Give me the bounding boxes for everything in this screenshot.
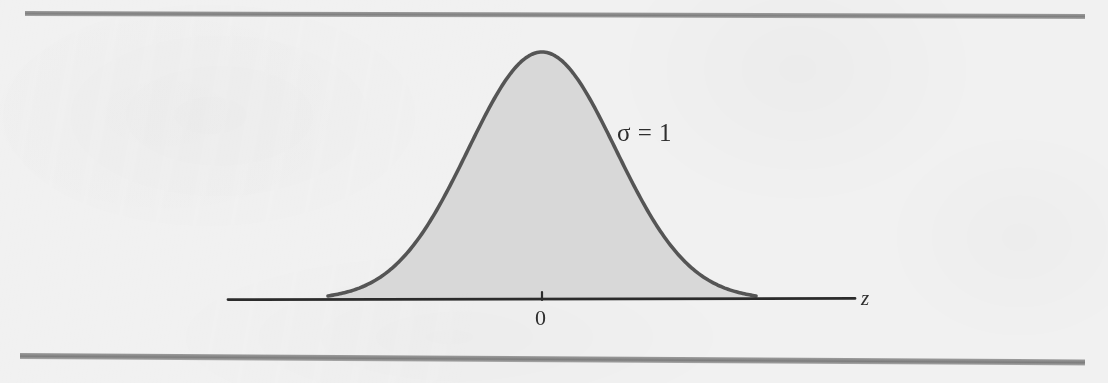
distribution-shaded-area [328, 52, 756, 300]
mean-tick-label: 0 [535, 307, 546, 329]
axis-variable-label: z [861, 288, 869, 309]
figure-page: σ = 1 0 z [0, 0, 1108, 383]
sigma-annotation-label: σ = 1 [617, 120, 672, 145]
curve-group [328, 52, 756, 300]
normal-curve-figure [0, 0, 1108, 383]
